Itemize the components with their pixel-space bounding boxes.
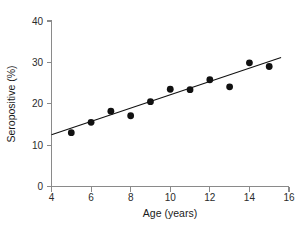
y-tick-label: 40	[32, 16, 44, 27]
x-axis-title: Age (years)	[143, 207, 197, 219]
x-tick-label: 16	[283, 192, 295, 203]
data-point	[127, 112, 134, 119]
chart-background	[0, 0, 304, 236]
x-tick-label: 6	[88, 192, 94, 203]
x-tick-label: 12	[204, 192, 216, 203]
y-axis-title: Seropositive (%)	[5, 65, 17, 142]
x-tick-label: 10	[165, 192, 177, 203]
data-point	[68, 129, 75, 136]
x-tick-label: 8	[128, 192, 134, 203]
chart-figure: 010203040 46810121416 Age (years) Seropo…	[0, 0, 304, 236]
y-tick-label: 0	[37, 181, 43, 192]
data-point	[167, 86, 174, 93]
data-point	[266, 63, 273, 70]
x-tick-label: 4	[49, 192, 55, 203]
data-point	[206, 76, 213, 83]
data-point	[187, 86, 194, 93]
data-point	[226, 83, 233, 90]
data-point	[88, 119, 95, 126]
data-point	[246, 59, 253, 66]
scatter-plot: 010203040 46810121416 Age (years) Seropo…	[0, 0, 304, 236]
data-point	[107, 108, 114, 115]
data-point	[147, 98, 154, 105]
y-tick-label: 10	[32, 140, 44, 151]
x-tick-label: 14	[244, 192, 256, 203]
y-tick-label: 30	[32, 57, 44, 68]
y-tick-label: 20	[32, 98, 44, 109]
